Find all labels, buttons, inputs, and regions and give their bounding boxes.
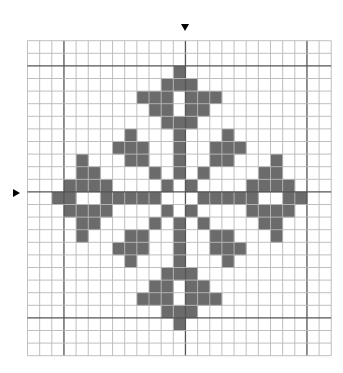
stitch-cell [173,129,185,142]
stitch-cell [185,268,197,281]
stitch-cell [271,230,283,243]
stitch-cell [173,154,185,167]
stitch-cell [210,91,222,104]
stitch-cell [185,205,197,218]
stitch-cell [64,179,76,192]
stitch-cell [100,179,112,192]
stitch-cell [149,104,161,117]
stitch-cell [234,192,246,205]
stitch-cell [125,142,137,155]
stitch-cell [185,280,197,293]
stitch-cell [76,230,88,243]
stitch-cell [198,192,210,205]
stitch-cell [149,192,161,205]
stitch-cell [88,167,100,180]
stitch-cell [258,217,270,230]
stitch-cell [76,154,88,167]
stitch-cell [173,318,185,331]
stitch-cell [234,142,246,155]
stitch-cell [173,66,185,79]
stitch-cell [222,242,234,255]
stitch-cell [161,305,173,318]
stitch-cell [64,192,76,205]
stitch-cell [149,217,161,230]
stitch-cell [137,293,149,306]
stitch-cell [137,242,149,255]
stitch-cell [210,142,222,155]
stitch-cell [185,305,197,318]
stitch-cell [283,205,295,218]
stitch-cell [100,192,112,205]
stitch-cell [271,179,283,192]
stitch-cell [161,280,173,293]
stitch-cell [88,179,100,192]
stitch-cell [161,79,173,92]
stitch-cell [185,116,197,129]
stitch-cell [295,192,307,205]
stitch-cell [88,217,100,230]
stitch-cell [198,104,210,117]
stitch-cell [210,293,222,306]
stitch-cell [198,167,210,180]
stitch-cell [210,230,222,243]
stitch-cell [173,116,185,129]
stitch-cell [246,192,258,205]
stitch-cell [173,230,185,243]
stitch-cell [76,205,88,218]
stitch-cell [149,91,161,104]
stitch-cell [246,179,258,192]
stitch-cell [258,167,270,180]
stitch-cell [222,192,234,205]
stitch-cell [271,205,283,218]
stitch-cell [137,154,149,167]
stitch-cell [161,205,173,218]
stitch-cell [149,167,161,180]
stitch-cell [222,129,234,142]
stitch-cell [125,255,137,268]
stitch-cell [100,205,112,218]
stitch-cell [76,179,88,192]
stitch-cell [161,268,173,281]
stitch-cell [222,154,234,167]
stitch-cell [271,167,283,180]
stitch-cell [185,179,197,192]
stitch-cell [198,293,210,306]
stitch-cell [173,255,185,268]
stitch-cell [76,217,88,230]
stitch-cell [173,305,185,318]
stitch-cell [137,91,149,104]
stitch-cell [149,293,161,306]
stitch-cell [137,192,149,205]
stitch-cell [52,192,64,205]
stitch-cell [185,293,197,306]
stitch-cell [222,230,234,243]
stitch-cell [283,192,295,205]
stitch-cell [173,79,185,92]
stitch-cell [173,142,185,155]
stitch-cell [64,205,76,218]
stitch-cell [125,129,137,142]
stitch-cell [149,280,161,293]
stitch-cell [161,104,173,117]
stitch-cell [258,179,270,192]
stitch-cell [173,217,185,230]
filled-stitches [52,66,307,331]
stitch-cell [137,230,149,243]
stitch-cell [185,79,197,92]
stitch-cell [125,242,137,255]
stitch-cell [258,205,270,218]
stitch-cell [173,268,185,281]
stitch-cell [137,142,149,155]
stitch-cell [88,205,100,218]
stitch-cell [161,293,173,306]
stitch-cell [161,91,173,104]
stitch-cell [173,167,185,180]
stitch-cell [198,280,210,293]
stitch-cell [210,242,222,255]
stitch-cell [271,217,283,230]
stitch-cell [113,142,125,155]
stitch-cell [113,242,125,255]
stitch-cell [161,116,173,129]
stitch-cell [125,230,137,243]
stitch-cell [161,179,173,192]
